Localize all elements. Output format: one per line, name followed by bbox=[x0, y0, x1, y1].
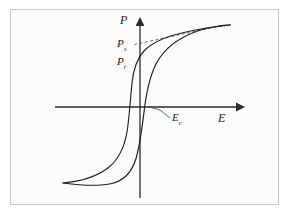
e-axis-label: E bbox=[218, 112, 225, 124]
hysteresis-plot-canvas bbox=[0, 0, 289, 214]
ec-base: E bbox=[172, 111, 179, 123]
remanent-polarization-label: Pr bbox=[117, 56, 126, 70]
e-axis-arrowhead bbox=[236, 103, 245, 112]
figure-root: P Ps Pr Ec E bbox=[0, 0, 289, 214]
pr-base: P bbox=[117, 55, 124, 67]
hysteresis-upper-branch bbox=[63, 25, 230, 183]
saturation-polarization-label: Ps bbox=[117, 38, 126, 52]
coercive-field-label: Ec bbox=[172, 112, 182, 126]
ps-base: P bbox=[117, 37, 124, 49]
p-axis-label: P bbox=[120, 14, 127, 26]
ec-subscript: c bbox=[179, 119, 182, 126]
ps-subscript: s bbox=[124, 45, 127, 52]
p-axis-arrowhead bbox=[136, 17, 145, 26]
saturation-tangent-dashed-line bbox=[135, 25, 232, 45]
pr-subscript: r bbox=[124, 63, 127, 70]
ec-leader-line bbox=[148, 107, 170, 119]
